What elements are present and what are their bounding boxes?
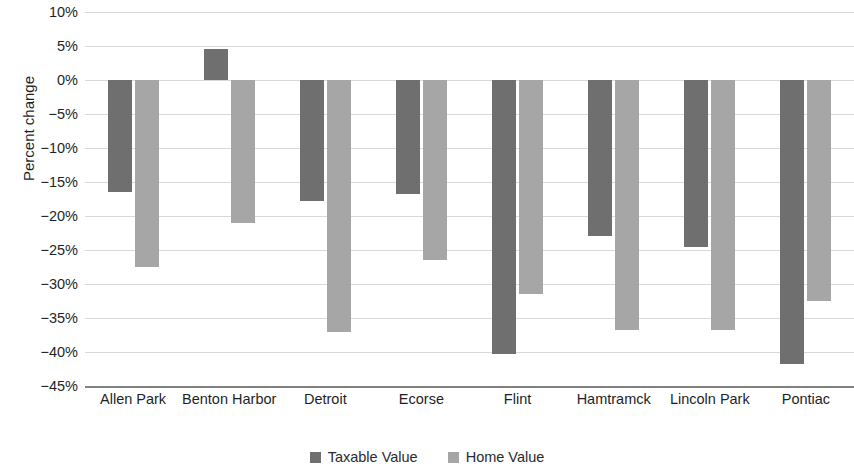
x-axis-label: Detroit — [277, 390, 373, 408]
y-axis-tick-label: −5% — [49, 106, 78, 122]
bar-group — [85, 12, 181, 386]
y-axis-tick-label: −15% — [41, 174, 79, 190]
legend-item[interactable]: Taxable Value — [310, 449, 418, 465]
x-axis-label: Hamtramck — [566, 390, 662, 408]
bar-group — [662, 12, 758, 386]
bar-home-value — [231, 80, 255, 223]
bar-group — [181, 12, 277, 386]
y-axis-tick-label: −10% — [41, 140, 79, 156]
bar-group — [758, 12, 854, 386]
legend-label: Taxable Value — [328, 449, 418, 465]
x-axis-category-labels: Allen ParkBenton HarborDetroitEcorseFlin… — [85, 390, 854, 438]
plot-area: 10%5%0%−5%−10%−15%−20%−25%−30%−35%−40%−4… — [85, 12, 854, 386]
bar-taxable-value — [588, 80, 612, 236]
bar-taxable-value — [204, 49, 228, 80]
y-axis-tick-label: −25% — [41, 242, 79, 258]
gridline — [85, 386, 854, 388]
bar-taxable-value — [684, 80, 708, 247]
bar-taxable-value — [396, 80, 420, 194]
legend-item[interactable]: Home Value — [448, 449, 545, 465]
bar-home-value — [423, 80, 447, 260]
y-axis-tick-label: −20% — [41, 208, 79, 224]
bar-home-value — [807, 80, 831, 301]
bar-home-value — [135, 80, 159, 267]
x-axis-label: Pontiac — [758, 390, 854, 408]
bar-chart: Percent change 10%5%0%−5%−10%−15%−20%−25… — [0, 0, 854, 471]
bar-home-value — [519, 80, 543, 294]
y-axis-tick-label: −30% — [41, 276, 79, 292]
y-axis-title: Percent change — [20, 39, 37, 219]
chart-legend: Taxable ValueHome Value — [0, 449, 854, 465]
x-axis-label: Ecorse — [373, 390, 469, 408]
bar-group — [470, 12, 566, 386]
x-axis-label: Allen Park — [85, 390, 181, 408]
y-axis-tick-label: 0% — [57, 72, 78, 88]
bar-home-value — [327, 80, 351, 332]
y-axis-tick-label: 10% — [49, 4, 78, 20]
bar-group — [277, 12, 373, 386]
bar-group — [373, 12, 469, 386]
x-axis-label: Benton Harbor — [181, 390, 277, 408]
bar-group — [566, 12, 662, 386]
bar-taxable-value — [300, 80, 324, 201]
x-axis-label: Lincoln Park — [662, 390, 758, 408]
bar-home-value — [615, 80, 639, 330]
legend-label: Home Value — [466, 449, 545, 465]
y-axis-tick-label: 5% — [57, 38, 78, 54]
bar-home-value — [711, 80, 735, 330]
x-axis-label: Flint — [470, 390, 566, 408]
legend-swatch-icon — [448, 452, 459, 463]
y-axis-tick-label: −35% — [41, 310, 79, 326]
y-axis-tick-label: −45% — [41, 378, 79, 394]
bar-taxable-value — [108, 80, 132, 192]
bar-taxable-value — [780, 80, 804, 364]
y-axis-tick-label: −40% — [41, 344, 79, 360]
legend-swatch-icon — [310, 452, 321, 463]
bar-taxable-value — [492, 80, 516, 354]
